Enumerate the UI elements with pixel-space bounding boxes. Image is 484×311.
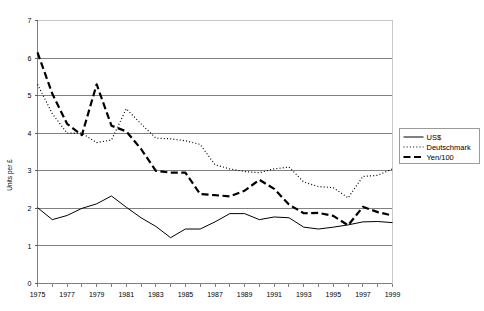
y-tick-label: 2 [28, 205, 32, 212]
y-axis-label: Units per £ [6, 159, 14, 191]
x-tick-label: 1993 [296, 291, 312, 298]
legend-label: US$ [427, 133, 442, 142]
y-tick-label: 4 [28, 130, 32, 137]
chart-container: 01234567 1975197719791981198319851987198… [0, 0, 484, 311]
y-tick-label: 5 [28, 92, 32, 99]
y-tick-label: 6 [28, 55, 32, 62]
x-tick-label: 1979 [89, 291, 105, 298]
y-tick-label: 7 [28, 17, 32, 24]
x-tick-label: 1999 [385, 291, 401, 298]
x-tick-label: 1995 [326, 291, 342, 298]
exchange-rate-line-chart: 01234567 1975197719791981198319851987198… [0, 0, 484, 311]
chart-legend: US$DeutschmarkYen/100 [400, 129, 480, 164]
x-tick-label: 1997 [355, 291, 371, 298]
y-tick-label: 1 [28, 243, 32, 250]
x-tick-label: 1989 [237, 291, 253, 298]
x-tick-label: 1977 [59, 291, 75, 298]
y-tick-label: 0 [28, 280, 32, 287]
y-axis-label-text: Units per £ [6, 159, 14, 191]
x-tick-label: 1985 [178, 291, 194, 298]
legend-label: Deutschmark [427, 143, 471, 152]
x-tick-label: 1991 [266, 291, 282, 298]
y-tick-label: 3 [28, 167, 32, 174]
legend-label: Yen/100 [427, 153, 454, 162]
x-tick-label: 1983 [148, 291, 164, 298]
x-tick-label: 1987 [207, 291, 223, 298]
x-tick-label: 1975 [30, 291, 46, 298]
x-tick-label: 1981 [118, 291, 134, 298]
